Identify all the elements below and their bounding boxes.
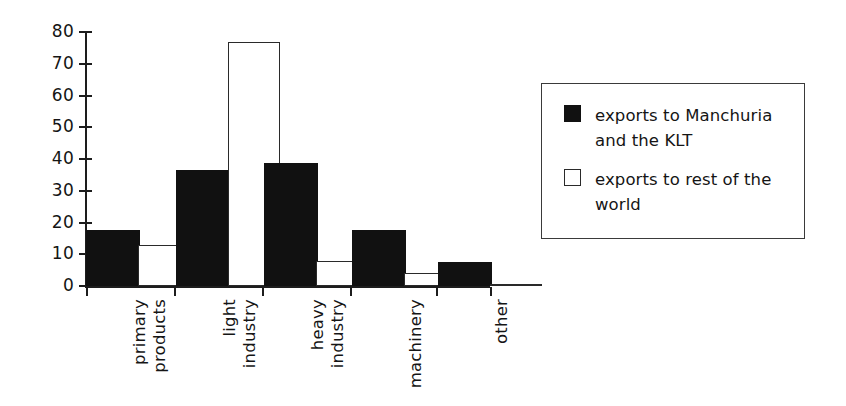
x-tick-mark [436, 287, 438, 296]
category-label-light-industry: lightindustry [208, 299, 248, 399]
category-label-primary-products: primaryproducts [118, 299, 158, 399]
y-tick-label: 70 [32, 55, 74, 72]
y-tick-label-text: 30 [40, 182, 74, 199]
category-label-line: industry [242, 299, 259, 368]
y-tick-label: 60 [32, 87, 74, 104]
bar-chart-figure: 01020304050607080 primaryproductslightin… [0, 0, 846, 406]
legend-item-rest-of-world: exports to rest of the world [564, 167, 800, 217]
bar-primary-products-series-1 [86, 230, 140, 286]
x-tick-mark [350, 287, 352, 296]
category-label-line: primary [132, 299, 149, 365]
legend-swatch-outlined-white-square-icon [564, 169, 581, 186]
plot-area: 01020304050607080 primaryproductslightin… [0, 0, 560, 406]
legend-label-rest-of-world: exports to rest of the world [595, 167, 800, 217]
y-tick-label: 40 [32, 150, 74, 167]
x-tick-mark [490, 287, 492, 296]
y-tick-label-text: 50 [40, 118, 74, 135]
category-label-other: other [480, 299, 500, 399]
bar-machinery-series-1 [352, 230, 406, 286]
legend-item-manchuria: exports to Manchuria and the KLT [564, 103, 800, 153]
y-tick-label: 20 [32, 214, 74, 231]
category-label-line: machinery [408, 299, 425, 388]
category-label-line: industry [330, 299, 347, 368]
y-tick-label-text: 0 [40, 277, 74, 294]
y-tick-label-text: 20 [40, 214, 74, 231]
bar-other-series-2 [490, 284, 542, 286]
category-label-line: products [152, 299, 169, 373]
category-label-machinery: machinery [394, 299, 414, 399]
x-tick-mark [174, 287, 176, 296]
bar-light-industry-series-1 [176, 170, 230, 286]
y-tick-label: 0 [32, 277, 74, 294]
bars-layer [86, 32, 490, 286]
y-tick-label: 10 [32, 245, 74, 262]
category-label-line: other [494, 299, 511, 344]
category-label-heavy-industry: heavyindustry [296, 299, 336, 399]
y-tick-label: 50 [32, 118, 74, 135]
x-tick-mark [86, 287, 88, 296]
y-tick-label-text: 70 [40, 55, 74, 72]
y-tick-label-text: 40 [40, 150, 74, 167]
y-tick-label-text: 80 [40, 23, 74, 40]
category-label-line: light [222, 299, 239, 337]
legend-swatch-filled-black-square-icon [564, 105, 581, 122]
category-label-line: heavy [310, 299, 327, 350]
y-tick-label-text: 10 [40, 245, 74, 262]
chart-legend: exports to Manchuria and the KLT exports… [541, 83, 805, 239]
legend-label-manchuria: exports to Manchuria and the KLT [595, 103, 800, 153]
y-tick-label: 80 [32, 23, 74, 40]
y-tick-label: 30 [32, 182, 74, 199]
bar-other-series-1 [438, 262, 492, 286]
y-tick-label-text: 60 [40, 87, 74, 104]
x-axis-line [85, 286, 490, 288]
x-tick-mark [262, 287, 264, 296]
bar-heavy-industry-series-1 [264, 163, 318, 286]
